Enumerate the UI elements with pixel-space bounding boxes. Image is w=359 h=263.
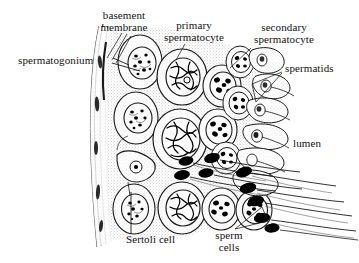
primary-spermatocyte-group <box>153 49 207 234</box>
primary-spermatocyte-cell <box>157 49 207 105</box>
label-sertoli-cell: Sertoli cell <box>126 234 175 246</box>
label-secondary-spermatocyte: secondary spermatocyte <box>238 22 330 45</box>
label-spermatogonium: spermatogonium <box>18 55 128 67</box>
primary-spermatocyte-cell <box>158 182 206 234</box>
label-primary-spermatocyte: primary spermatocyte <box>151 20 237 43</box>
spermatogonium-cell <box>114 92 158 144</box>
secondary-spermatocyte-cell <box>202 188 240 230</box>
label-lumen: lumen <box>293 138 321 150</box>
spermatogonium-cell <box>113 184 155 234</box>
label-spermatids: spermatids <box>285 63 334 75</box>
label-sperm-cells: sperm cells <box>199 230 259 253</box>
tubule-body <box>90 24 358 247</box>
